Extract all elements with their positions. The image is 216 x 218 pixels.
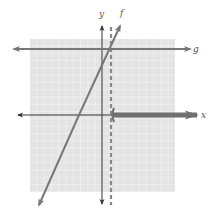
g-label: g — [193, 44, 199, 54]
y-axis-label: y — [98, 9, 105, 19]
x-axis-label: x — [201, 110, 206, 120]
graph: y f g x — [0, 0, 216, 218]
f-label: f — [119, 8, 125, 18]
